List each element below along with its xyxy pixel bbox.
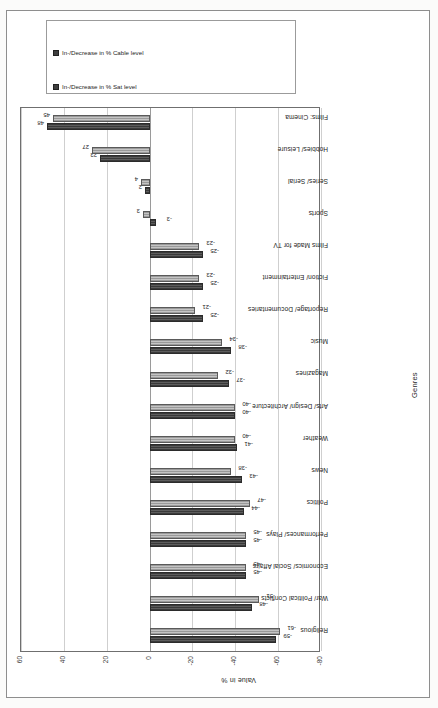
y-tick-60: 60 — [16, 656, 23, 682]
bar-group[interactable]: -38-34 — [21, 330, 319, 362]
y-axis-title: Value in % — [221, 677, 256, 684]
bar-group[interactable]: -40-40 — [21, 395, 319, 427]
category-label: Performances/ Plays — [266, 531, 328, 538]
bar-cable[interactable] — [150, 436, 236, 443]
bar-cable[interactable] — [150, 372, 219, 379]
category-label: Religious — [300, 627, 328, 634]
bar-group[interactable]: -37-32 — [21, 362, 319, 394]
bar-group[interactable]: -25-23 — [21, 266, 319, 298]
bar-sat[interactable] — [150, 315, 204, 322]
data-label: -45 — [253, 537, 262, 543]
plot-area: -59-61-48-51-45-45-45-45-44-47-43-38-41-… — [20, 107, 320, 652]
bar-group[interactable]: 4845 — [21, 106, 319, 138]
legend-label: In-/Decrease in % Cable level — [62, 49, 144, 56]
bar-chart: Value in % Genres 6040200-20-40-60-80 -5… — [6, 10, 430, 698]
data-label: 45 — [43, 112, 50, 118]
category-label: Reportage/ Documentaries — [248, 306, 328, 313]
bar-cable[interactable] — [150, 468, 231, 475]
bar-sat[interactable] — [150, 283, 204, 290]
data-label: -47 — [258, 497, 267, 503]
bar-sat[interactable] — [150, 347, 231, 354]
data-label: -37 — [236, 377, 245, 383]
y-tick--20: -20 — [187, 656, 194, 682]
category-label: Films Made for TV — [273, 242, 328, 249]
bar-group[interactable]: -45-45 — [21, 555, 319, 587]
bar-cable[interactable] — [150, 275, 199, 282]
bar-sat[interactable] — [150, 540, 246, 547]
bar-cable[interactable] — [53, 115, 149, 122]
bar-sat[interactable] — [150, 636, 276, 643]
bar-cable[interactable] — [150, 628, 281, 635]
bar-sat[interactable] — [150, 444, 238, 451]
y-tick-40: 40 — [59, 656, 66, 682]
bar-sat[interactable] — [100, 155, 149, 162]
bar-sat[interactable] — [150, 604, 253, 611]
bar-group[interactable]: -48-51 — [21, 587, 319, 619]
bar-sat[interactable] — [150, 476, 242, 483]
bar-sat[interactable] — [47, 123, 150, 130]
bar-cable[interactable] — [150, 532, 246, 539]
category-label: Fiction/ Entertainment — [263, 274, 328, 281]
data-label: 27 — [82, 144, 89, 150]
data-label: -23 — [206, 272, 215, 278]
bar-sat[interactable] — [150, 219, 156, 226]
legend-item[interactable]: In-/Decrease in % Sat level — [53, 83, 137, 90]
data-label: -25 — [210, 280, 219, 286]
data-label: 3 — [137, 208, 140, 214]
bar-cable[interactable] — [150, 339, 223, 346]
bar-cable[interactable] — [150, 564, 246, 571]
bar-group[interactable]: 2327 — [21, 138, 319, 170]
data-label: -41 — [245, 441, 254, 447]
bar-group[interactable]: -25-23 — [21, 234, 319, 266]
y-tick--60: -60 — [273, 656, 280, 682]
y-tick--80: -80 — [316, 656, 323, 682]
legend-item[interactable]: In-/Decrease in % Cable level — [53, 49, 144, 56]
bar-group[interactable]: -44-47 — [21, 491, 319, 523]
bar-cable[interactable] — [143, 211, 149, 218]
x-axis-title: Genres — [410, 372, 419, 398]
bar-cable[interactable] — [150, 243, 199, 250]
bar-cable[interactable] — [150, 596, 259, 603]
category-label: Series/ Serial — [288, 178, 328, 185]
bar-group[interactable]: 24 — [21, 170, 319, 202]
rotated-chart-wrapper: Value in % Genres 6040200-20-40-60-80 -5… — [6, 10, 430, 698]
data-label: -3 — [167, 216, 172, 222]
bar-group[interactable]: -33 — [21, 202, 319, 234]
data-label: -40 — [243, 433, 252, 439]
bar-group[interactable]: -45-45 — [21, 523, 319, 555]
data-label: -25 — [210, 248, 219, 254]
y-tick-0: 0 — [145, 656, 152, 682]
data-label: -40 — [243, 409, 252, 415]
category-label: Sports — [309, 210, 328, 217]
bar-cable[interactable] — [92, 147, 150, 154]
bar-sat[interactable] — [150, 572, 246, 579]
data-label: -61 — [288, 625, 297, 631]
legend-swatch — [53, 84, 59, 90]
bar-cable[interactable] — [150, 307, 195, 314]
data-label: 4 — [135, 176, 138, 182]
data-label: -59 — [283, 633, 292, 639]
bar-sat[interactable] — [150, 380, 229, 387]
data-label: -44 — [251, 505, 260, 511]
data-label: -32 — [225, 369, 234, 375]
bar-cable[interactable] — [141, 179, 150, 186]
bar-sat[interactable] — [150, 412, 236, 419]
data-label: -34 — [230, 336, 239, 342]
category-label: War/ Political Conflicts — [261, 595, 328, 602]
bar-sat[interactable] — [145, 187, 149, 194]
data-label: -38 — [238, 344, 247, 350]
data-label: -45 — [253, 529, 262, 535]
category-label: News — [311, 467, 328, 474]
bar-group[interactable]: -41-40 — [21, 427, 319, 459]
chart-rotor: Value in % Genres 6040200-20-40-60-80 -5… — [6, 10, 430, 698]
bar-cable[interactable] — [150, 500, 251, 507]
bar-sat[interactable] — [150, 251, 204, 258]
bar-cable[interactable] — [150, 404, 236, 411]
data-label: -43 — [249, 473, 258, 479]
bar-group[interactable]: -43-38 — [21, 459, 319, 491]
bar-group[interactable]: -59-61 — [21, 619, 319, 651]
data-label: -25 — [210, 312, 219, 318]
bar-group[interactable]: -25-21 — [21, 298, 319, 330]
category-label: Politics — [307, 499, 328, 506]
bar-sat[interactable] — [150, 508, 244, 515]
